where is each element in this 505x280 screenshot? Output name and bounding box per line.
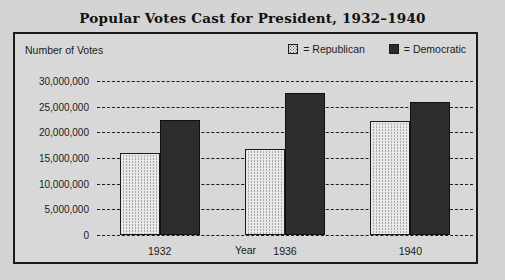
y-axis-tick-label: 15,000,000 [15, 153, 89, 164]
gridline [97, 81, 473, 82]
chart-plot-frame: Number of Votes = Republican = Democrati… [13, 32, 478, 264]
gridline [97, 235, 473, 236]
bar-republican-1940 [370, 121, 410, 235]
y-axis-tick-label: 20,000,000 [15, 127, 89, 138]
chart-figure: Popular Votes Cast for President, 1932–1… [0, 8, 505, 272]
bar-democratic-1940 [410, 102, 450, 235]
y-axis-tick-label: 0 [15, 230, 89, 241]
chart-title: Popular Votes Cast for President, 1932–1… [0, 10, 505, 26]
x-axis-title: Year [15, 244, 476, 256]
bar-republican-1932 [120, 153, 160, 235]
bar-democratic-1936 [285, 93, 325, 235]
y-axis-tick-label: 5,000,000 [15, 204, 89, 215]
y-axis-tick-label: 25,000,000 [15, 101, 89, 112]
y-axis-tick-label: 30,000,000 [15, 76, 89, 87]
bar-democratic-1932 [160, 120, 200, 236]
bar-republican-1936 [245, 149, 285, 235]
y-axis-tick-label: 10,000,000 [15, 178, 89, 189]
plot-area: 30,000,00025,000,00020,000,00015,000,000… [15, 34, 476, 262]
